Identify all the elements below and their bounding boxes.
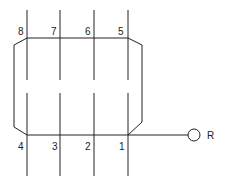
terminal-label: R	[207, 130, 214, 141]
label-6: 6	[85, 26, 91, 37]
label-3: 3	[52, 141, 58, 152]
terminal-circle-icon	[188, 129, 200, 141]
label-2: 2	[85, 141, 91, 152]
label-7: 7	[51, 26, 57, 37]
label-5: 5	[118, 26, 124, 37]
label-8: 8	[18, 26, 24, 37]
right-end-connection	[128, 38, 142, 135]
label-1: 1	[119, 141, 125, 152]
label-4: 4	[18, 141, 24, 152]
winding-diagram: 8 7 6 5 4 3 2 1 R	[0, 0, 225, 186]
left-end-connection	[14, 38, 27, 135]
